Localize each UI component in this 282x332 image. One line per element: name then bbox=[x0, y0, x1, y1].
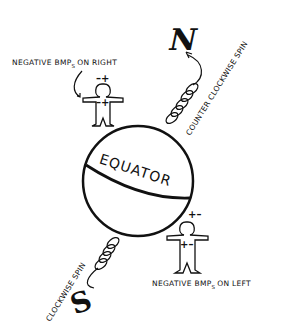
bottom-figure-body-signs: +– bbox=[180, 239, 193, 250]
bottom-figure-caption: NEGATIVE BMPSON LEFT bbox=[152, 279, 251, 290]
north-pole-label: N bbox=[166, 22, 201, 57]
top-figure-arrow bbox=[74, 71, 82, 97]
top-figure-caption: NEGATIVE BMPSON RIGHT bbox=[12, 58, 117, 69]
south-spin-coil bbox=[87, 235, 121, 288]
globe bbox=[83, 126, 193, 236]
top-figure-head-signs: –+ bbox=[96, 73, 109, 84]
bottom-figure-head-signs: +– bbox=[188, 209, 201, 220]
top-figure-body-signs: –+ bbox=[96, 97, 109, 108]
earth-spin-diagram: EQUATOR N COUNTER CLOCKWISE SPIN S CLOCK… bbox=[0, 0, 282, 332]
equator-label: EQUATOR bbox=[98, 151, 174, 189]
